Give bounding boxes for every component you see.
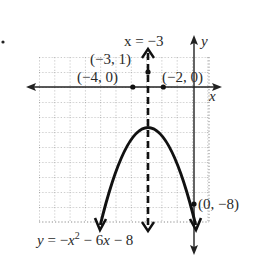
vertex-point (145, 69, 150, 74)
x-intercept-left-label: (−4, 0) (77, 69, 118, 86)
parabola-graph: x = −3 y x (−3, 1) (−4, 0) (−2, 0) (0, −… (0, 0, 258, 260)
y-intercept-label: (0, −8) (198, 196, 239, 213)
aos-label: x = −3 (124, 33, 163, 49)
x-intercept-left (130, 84, 135, 89)
y-intercept-point (191, 201, 196, 206)
y-axis-label: y (199, 33, 208, 49)
bullet-dot (1, 40, 4, 43)
x-intercept-right-label: (−2, 0) (162, 69, 203, 86)
x-intercept-right (161, 84, 166, 89)
vertex-label: (−3, 1) (90, 51, 131, 68)
equation-label: y = −x2 − 6x − 8 (35, 230, 133, 248)
x-axis-label: x (208, 88, 216, 104)
